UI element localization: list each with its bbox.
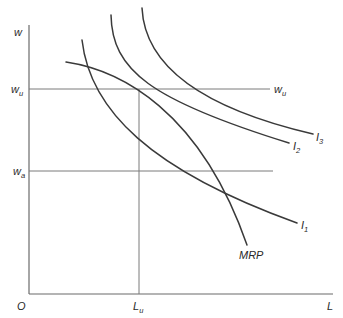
i3-sub: 3 — [319, 137, 324, 146]
wu-sub: u — [19, 89, 24, 98]
wu-line-label: wu — [274, 83, 287, 98]
i2-label: I2 — [293, 140, 301, 155]
i1-label: I1 — [301, 219, 308, 234]
wa-axis-label: wa — [13, 165, 25, 180]
i1-sub: 1 — [304, 225, 308, 234]
indifference-curve-i2 — [111, 15, 289, 143]
wu-axis-label: wu — [11, 83, 24, 98]
lu-axis-label: Lu — [133, 300, 144, 315]
indifference-curve-i3 — [142, 8, 313, 134]
i3-label: I3 — [316, 131, 324, 146]
lu-sub: u — [139, 306, 144, 315]
i2-sub: 2 — [295, 146, 301, 155]
origin-label: O — [17, 300, 26, 312]
wu-right-sub: u — [282, 89, 287, 98]
wa-sub: a — [21, 171, 25, 180]
x-axis-label: L — [327, 300, 333, 312]
mrp-label: MRP — [239, 249, 264, 261]
labor-market-diagram: w L O wu wu wa Lu I1 I2 I3 MRP — [0, 0, 343, 318]
indifference-curve-i1 — [82, 40, 297, 223]
y-axis-label: w — [14, 26, 23, 38]
